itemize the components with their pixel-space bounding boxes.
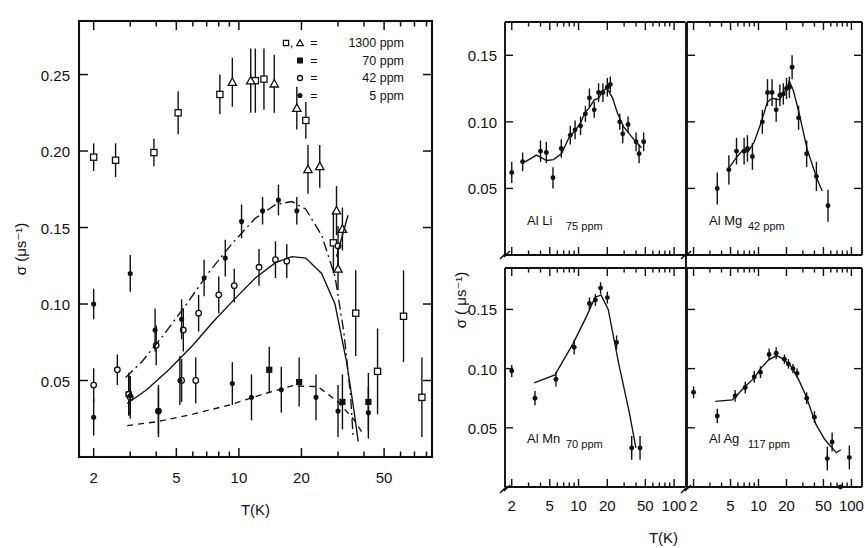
left-datapoint (217, 91, 223, 97)
panel-al-mn-xtick-label: 20 (599, 497, 616, 514)
left-datapoint (266, 367, 272, 373)
panel-al-ag-datapoint (767, 352, 772, 357)
left-datapoint (216, 292, 222, 298)
legend-marker-filled-square (297, 58, 303, 64)
left-datapoint (294, 208, 299, 213)
left-xtick-label: 50 (376, 469, 393, 486)
panel-al-li-datapoint (641, 139, 646, 144)
left-datapoint (270, 80, 278, 87)
panel-al-li-datapoint (626, 122, 631, 127)
left-datapoint (196, 310, 202, 316)
left-xtick-label: 2 (89, 469, 97, 486)
panel-al-mn-conc-label: 70 ppm (566, 438, 603, 450)
legend-label: 42 ppm (362, 71, 404, 85)
left-xtick-label: 10 (231, 469, 248, 486)
panel-al-ag-conc-label: 117 ppm (748, 438, 790, 450)
left-datapoint (239, 219, 244, 224)
panel-al-mg-datapoint (765, 90, 770, 95)
legend-label: 70 ppm (362, 54, 404, 68)
left-datapoint (313, 395, 318, 400)
legend-equals: = (310, 71, 317, 85)
left-yaxis-label: σ (μs⁻¹) (12, 223, 29, 275)
legend-equals: = (310, 89, 317, 103)
legend-equals: = (310, 54, 317, 68)
panel-al-li-ytick-label: 0.05 (468, 180, 497, 197)
panel-al-ag-datapoint (715, 414, 720, 419)
figure-root: 251020500.050.100.150.200.25T(K)σ (μs⁻¹)… (0, 0, 865, 548)
left-datapoint (151, 149, 157, 155)
left-xaxis-label: T(K) (241, 501, 270, 518)
left-datapoint (316, 162, 324, 169)
panel-al-li-datapoint (544, 150, 549, 155)
left-datapoint (231, 283, 237, 289)
panel-al-mn-datapoint (553, 377, 558, 382)
panel-al-ag-datapoint (847, 455, 852, 460)
left-datapoint (177, 378, 182, 383)
left-datapoint (153, 327, 158, 332)
panel-al-ag-xtick-label: 2 (689, 497, 697, 514)
left-datapoint (193, 378, 199, 384)
left-datapoint (175, 110, 181, 116)
panel-al-li-datapoint (538, 149, 543, 154)
left-datapoint (230, 381, 235, 386)
panel-al-li-conc-label: 75 ppm (566, 220, 603, 232)
panel-al-li-datapoint (551, 175, 556, 180)
panel-al-li-datapoint (608, 82, 613, 87)
panel-al-mn-xtick-label: 100 (662, 497, 687, 514)
left-datapoint (304, 165, 312, 172)
left-datapoint (91, 415, 96, 420)
left-datapoint (228, 78, 236, 85)
panel-al-mn-alloy-label: Al Mn (527, 431, 560, 446)
panel-al-li-datapoint (592, 107, 597, 112)
legend-label: 5 ppm (369, 89, 404, 103)
legend-label: 1300 ppm (348, 36, 404, 50)
panel-al-ag-alloy-label: Al Ag (709, 431, 739, 446)
legend-marker-filled-circle (297, 93, 302, 98)
left-ytick-label: 0.20 (41, 143, 70, 160)
left-datapoint (296, 379, 302, 385)
left-datapoint (303, 117, 309, 123)
panel-al-mn-datapoint (598, 286, 603, 291)
left-datapoint (179, 317, 184, 322)
left-datapoint (115, 367, 121, 373)
figure-canvas: 251020500.050.100.150.200.25T(K)σ (μs⁻¹)… (0, 0, 865, 548)
panel-al-mg-datapoint (826, 203, 831, 208)
panel-al-mg-datapoint (715, 186, 720, 191)
left-curve-70ppm (126, 202, 354, 439)
legend-comma: , (290, 36, 293, 50)
panel-al-ag-datapoint (838, 485, 843, 490)
panel-al-mg-datapoint (734, 149, 739, 154)
panel-al-ag-datapoint (825, 456, 830, 461)
left-datapoint (419, 394, 425, 400)
left-datapoint (366, 410, 371, 415)
panel-al-ag-xtick-label: 100 (839, 497, 864, 514)
panel-al-mn-xtick-label: 5 (546, 497, 554, 514)
panel-al-li-datapoint (620, 131, 625, 136)
legend-marker-open-triangle (297, 40, 303, 46)
panel-al-ag-xtick-label: 5 (726, 497, 734, 514)
panel-al-mn-datapoint (605, 295, 610, 300)
left-xtick-label: 20 (293, 469, 310, 486)
left-datapoint (91, 154, 97, 160)
panel-al-mg-alloy-label: Al Mg (709, 213, 742, 228)
panel-al-mn-ytick-label: 0.10 (468, 361, 497, 378)
left-datapoint (400, 313, 406, 319)
panel-al-li-datapoint (587, 95, 592, 100)
left-datapoint (156, 409, 161, 414)
panel-al-mn-xtick-label: 10 (570, 497, 587, 514)
left-datapoint (260, 208, 265, 213)
left-datapoint (293, 104, 301, 111)
panel-al-li-datapoint (637, 151, 642, 156)
panel-al-mn-xtick-label: 2 (508, 497, 516, 514)
left-ytick-label: 0.10 (41, 296, 70, 313)
left-datapoint (335, 409, 340, 414)
left-curve-42ppm (127, 257, 358, 442)
legend-marker-open-circle (297, 75, 302, 80)
panel-al-mn-datapoint (533, 396, 538, 401)
panel-al-ag-datapoint (691, 390, 696, 395)
left-ytick-label: 0.05 (41, 373, 70, 390)
panel-al-mn-xtick-label: 50 (637, 497, 654, 514)
panel-al-ag-datapoint (774, 351, 779, 356)
legend-equals: = (310, 36, 317, 50)
panel-al-mn-datapoint (638, 445, 643, 450)
